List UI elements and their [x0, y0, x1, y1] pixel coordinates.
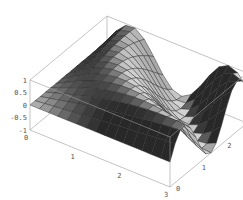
x-tick-label: 1 — [71, 153, 75, 161]
y-tick-label: 0 — [176, 185, 180, 193]
z-tick-label: 1 — [23, 77, 27, 85]
y-tick-label: 1 — [202, 164, 206, 172]
z-tick-label: 0.5 — [14, 89, 27, 97]
z-tick-label: -0.5 — [10, 114, 27, 122]
y-tick-label: 2 — [227, 142, 231, 150]
x-tick-label: 2 — [117, 172, 121, 180]
surface-mesh — [30, 25, 243, 162]
z-tick-label: 0 — [23, 102, 27, 110]
x-tick-label: 0 — [24, 134, 28, 142]
surface-plot-3d: -1-0.500.5101230123 — [0, 0, 243, 200]
x-tick-label: 3 — [164, 191, 168, 199]
